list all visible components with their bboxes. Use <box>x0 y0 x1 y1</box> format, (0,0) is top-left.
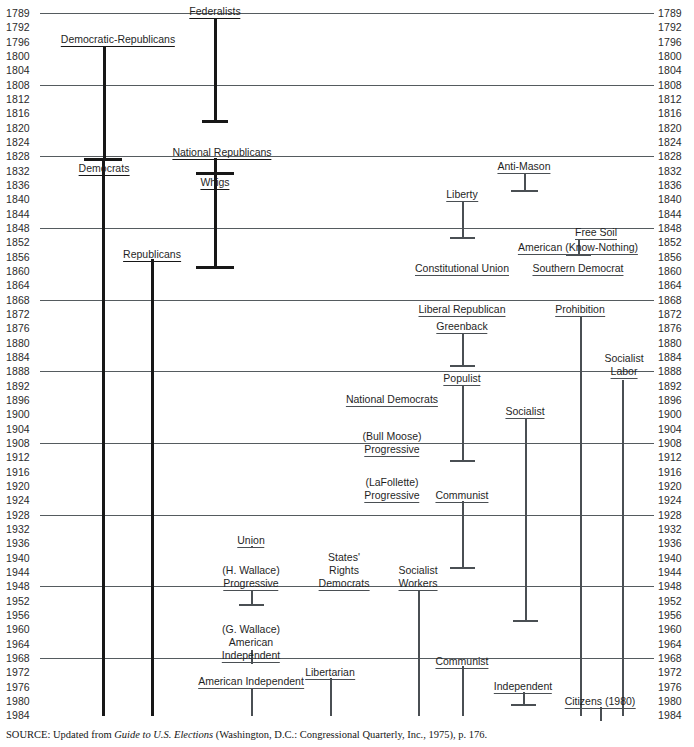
party-label-liberal-republican[interactable]: Liberal Republican <box>419 304 506 317</box>
party-bar-prohibition[interactable] <box>580 316 582 716</box>
party-label-bull-moose-line2[interactable]: Progressive <box>364 444 419 457</box>
party-bar-federalists[interactable] <box>214 18 217 122</box>
party-label-socialist-workers-line1[interactable]: Socialist <box>398 565 437 577</box>
year-label-1792-left: 1792 <box>6 22 30 33</box>
party-label-lafollette-line2[interactable]: Progressive <box>364 490 419 503</box>
party-label-anti-mason[interactable]: Anti-Mason <box>497 161 550 174</box>
year-label-1816-right: 1816 <box>658 108 682 119</box>
year-label-1880-right: 1880 <box>658 338 682 349</box>
party-label-g-wallace-line1[interactable]: (G. Wallace) <box>222 624 280 636</box>
gridline-1868 <box>40 300 654 301</box>
party-label-states-rights-line1[interactable]: States' <box>328 552 360 564</box>
year-label-1792-right: 1792 <box>658 22 682 33</box>
gridline-1908 <box>40 443 654 444</box>
party-bar-bull-moose-progressive[interactable] <box>462 443 464 461</box>
party-bar-american-independent[interactable] <box>251 688 253 716</box>
year-label-1908-right: 1908 <box>658 438 682 449</box>
year-label-1932-left: 1932 <box>6 524 30 535</box>
party-label-lafollette-line1[interactable]: (LaFollette) <box>365 477 418 489</box>
party-label-republicans[interactable]: Republicans <box>123 249 181 262</box>
year-label-1948-right: 1948 <box>658 581 682 592</box>
party-bar-socialist-workers[interactable] <box>418 591 420 716</box>
party-label-american-know-nothing[interactable]: American (Know-Nothing) <box>518 242 638 255</box>
year-label-1812-right: 1812 <box>658 94 682 105</box>
party-label-libertarian[interactable]: Libertarian <box>305 667 355 680</box>
party-label-union[interactable]: Union <box>237 535 264 548</box>
year-label-1948-left: 1948 <box>6 581 30 592</box>
party-label-independent[interactable]: Independent <box>494 681 552 694</box>
party-label-liberty[interactable]: Liberty <box>446 189 478 202</box>
year-label-1808-left: 1808 <box>6 80 30 91</box>
party-bar-h-wallace-progressive[interactable] <box>251 591 253 605</box>
party-label-h-wallace-line2[interactable]: Progressive <box>223 578 278 591</box>
party-bar-communist-1924[interactable] <box>462 501 464 568</box>
year-label-1884-left: 1884 <box>6 352 30 363</box>
party-label-citizens[interactable]: Citizens (1980) <box>565 696 636 709</box>
party-bar-libertarian[interactable] <box>330 678 332 716</box>
party-label-socialist-labor-line1[interactable]: Socialist <box>604 353 643 365</box>
party-label-prohibition[interactable]: Prohibition <box>555 304 605 317</box>
party-bar-socialist-labor[interactable] <box>622 380 624 716</box>
party-bar-greenback[interactable] <box>462 333 464 366</box>
party-label-states-rights-line2[interactable]: Rights <box>329 565 359 577</box>
party-bar-citizens[interactable] <box>600 707 602 721</box>
year-label-1856-right: 1856 <box>658 252 682 263</box>
party-label-g-wallace-line2[interactable]: American <box>229 637 273 649</box>
year-label-1960-right: 1960 <box>658 624 682 635</box>
party-timeline-chart: 1789179217961800180418081812181618201824… <box>0 0 694 747</box>
year-label-1972-right: 1972 <box>658 667 682 678</box>
year-label-1848-left: 1848 <box>6 223 30 234</box>
year-label-1956-left: 1956 <box>6 610 30 621</box>
party-label-communist-1924[interactable]: Communist <box>435 490 488 503</box>
party-label-populist[interactable]: Populist <box>443 373 480 386</box>
year-label-1824-right: 1824 <box>658 137 682 148</box>
party-bar-communist-1968[interactable] <box>462 666 464 716</box>
year-label-1804-left: 1804 <box>6 65 30 76</box>
party-bar-democrats[interactable] <box>102 158 105 716</box>
party-label-constitutional-union[interactable]: Constitutional Union <box>415 263 509 276</box>
year-label-1936-left: 1936 <box>6 538 30 549</box>
year-label-1944-left: 1944 <box>6 567 30 578</box>
party-label-h-wallace-line1[interactable]: (H. Wallace) <box>222 565 279 577</box>
party-label-federalists[interactable]: Federalists <box>189 6 240 19</box>
party-label-g-wallace-line3[interactable]: Independent <box>222 650 280 663</box>
year-label-1916-right: 1916 <box>658 467 682 478</box>
party-label-communist-1968[interactable]: Communist <box>435 656 488 669</box>
party-label-bull-moose-line1[interactable]: (Bull Moose) <box>363 431 422 443</box>
year-label-1880-left: 1880 <box>6 338 30 349</box>
party-label-southern-democrat[interactable]: Southern Democrat <box>532 263 623 276</box>
party-label-democrats[interactable]: Democrats <box>79 163 130 176</box>
party-cap-greenback-end <box>450 365 475 367</box>
party-label-democratic-republicans[interactable]: Democratic-Republicans <box>61 34 175 47</box>
party-label-national-republicans[interactable]: National Republicans <box>172 147 271 160</box>
year-label-1980-right: 1980 <box>658 696 682 707</box>
party-bar-socialist[interactable] <box>525 418 527 621</box>
party-label-states-rights-line3[interactable]: Democrats <box>319 578 370 591</box>
year-label-1900-right: 1900 <box>658 409 682 420</box>
year-label-1796-right: 1796 <box>658 37 682 48</box>
party-label-american-independent[interactable]: American Independent <box>198 676 304 689</box>
party-label-socialist-workers-line2[interactable]: Workers <box>399 578 438 591</box>
party-bar-democratic-republicans[interactable] <box>103 46 106 160</box>
year-label-1876-right: 1876 <box>658 323 682 334</box>
year-label-1932-right: 1932 <box>658 524 682 535</box>
year-label-1916-left: 1916 <box>6 467 30 478</box>
source-prefix: SOURCE: Updated from <box>6 729 114 740</box>
year-label-1789-right: 1789 <box>658 8 682 19</box>
party-cap-liberty-end <box>450 237 475 239</box>
source-title: Guide to U.S. Elections <box>114 729 213 740</box>
party-cap-whigs-end <box>196 266 234 269</box>
year-label-1952-left: 1952 <box>6 596 30 607</box>
party-bar-anti-mason[interactable] <box>524 173 526 191</box>
party-label-greenback[interactable]: Greenback <box>436 321 487 334</box>
year-label-1828-right: 1828 <box>658 151 682 162</box>
party-label-free-soil[interactable]: Free Soil <box>575 227 617 240</box>
source-suffix: (Washington, D.C.: Congressional Quarter… <box>213 729 487 740</box>
party-label-socialist-labor-line2[interactable]: Labor <box>611 366 638 379</box>
party-label-socialist[interactable]: Socialist <box>505 406 544 419</box>
party-label-whigs[interactable]: Whigs <box>200 177 229 190</box>
party-label-national-democrats[interactable]: National Democrats <box>346 394 438 407</box>
party-bar-liberty[interactable] <box>462 201 464 238</box>
party-bar-republicans[interactable] <box>151 259 154 716</box>
year-label-1928-right: 1928 <box>658 510 682 521</box>
